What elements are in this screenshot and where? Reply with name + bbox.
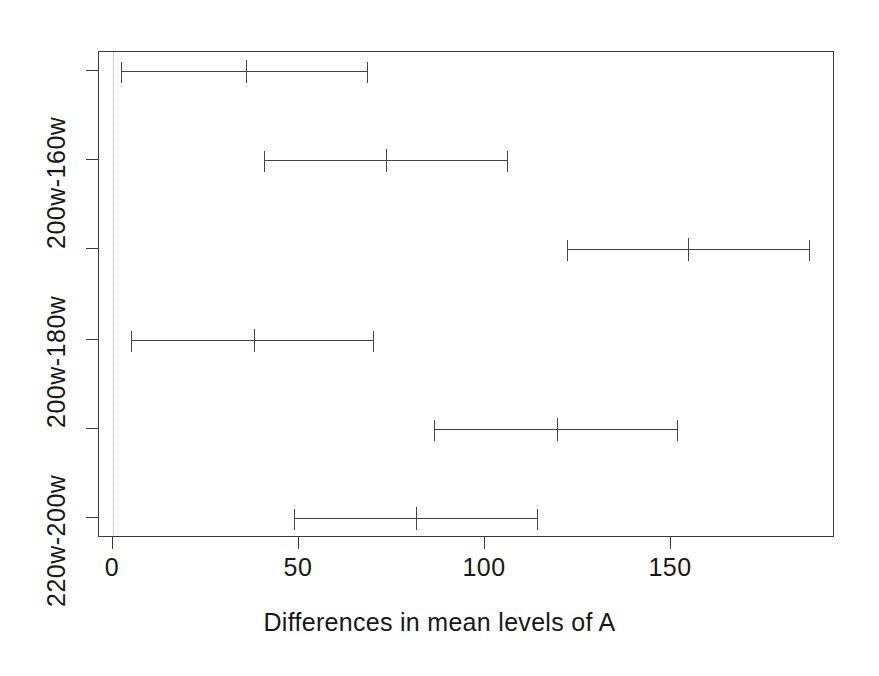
interval-lower-cap — [294, 509, 295, 530]
y-axis-tick — [86, 159, 98, 160]
x-axis-tick — [112, 537, 113, 549]
y-axis-tick-label: 200w-180w — [42, 295, 71, 427]
y-axis-tick — [86, 517, 98, 518]
interval-line — [434, 429, 678, 430]
x-axis-tick — [670, 537, 671, 549]
interval-lower-cap — [121, 62, 122, 83]
interval-line — [131, 340, 374, 341]
interval-lower-cap — [567, 240, 568, 261]
interval-center-marker — [246, 60, 247, 83]
x-axis-title: Differences in mean levels of A — [0, 608, 879, 637]
y-axis-tick — [86, 248, 98, 249]
interval-upper-cap — [537, 509, 538, 530]
y-axis-tick — [86, 339, 98, 340]
y-axis-tick-label: 220w-200w — [42, 474, 71, 606]
interval-lower-cap — [434, 420, 435, 441]
y-axis-tick-label: 200w-160w — [42, 116, 71, 248]
x-axis-tick — [484, 537, 485, 549]
interval-center-marker — [254, 329, 255, 352]
interval-center-marker — [557, 418, 558, 441]
y-axis-tick — [86, 70, 98, 71]
y-axis-tick — [86, 428, 98, 429]
interval-upper-cap — [367, 62, 368, 83]
x-axis-tick-label: 100 — [462, 553, 505, 582]
interval-line — [121, 71, 368, 72]
interval-upper-cap — [507, 151, 508, 172]
zero-reference-line — [113, 52, 114, 536]
interval-center-marker — [416, 507, 417, 530]
interval-lower-cap — [131, 331, 132, 352]
x-axis-tick-label: 150 — [648, 553, 691, 582]
x-axis-tick-label: 50 — [284, 553, 313, 582]
interval-upper-cap — [809, 240, 810, 261]
interval-center-marker — [386, 149, 387, 172]
interval-upper-cap — [373, 331, 374, 352]
tukey-hsd-confidence-interval-plot: 050100150 200w-160w200w-180w220w-200w Di… — [0, 0, 879, 676]
interval-lower-cap — [264, 151, 265, 172]
x-axis-tick — [298, 537, 299, 549]
interval-upper-cap — [677, 420, 678, 441]
interval-center-marker — [688, 238, 689, 261]
x-axis-tick-label: 0 — [105, 553, 119, 582]
plot-panel — [98, 51, 834, 537]
